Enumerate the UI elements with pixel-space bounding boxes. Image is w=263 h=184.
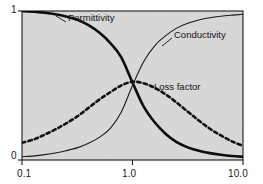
x-axis-ticks: [22, 160, 243, 165]
y-axis-max-label: 1: [11, 4, 17, 15]
x-axis-tick-label-0: 0.1: [17, 168, 31, 179]
series-label-permittivity: Permittivity: [68, 12, 114, 23]
y-axis-min-label: 0: [11, 150, 17, 161]
series-label-conductivity: Conductivity: [174, 29, 226, 40]
series-label-loss-factor: Loss factor: [154, 81, 200, 92]
chart-canvas: [0, 0, 263, 184]
chart-figure: 1 0 0.1 1.0 10.0 Permittivity Conductivi…: [0, 0, 263, 184]
x-axis-tick-label-1: 1.0: [122, 168, 136, 179]
y-axis-ticks: [18, 11, 22, 160]
x-axis-tick-label-2: 10.0: [228, 168, 248, 179]
